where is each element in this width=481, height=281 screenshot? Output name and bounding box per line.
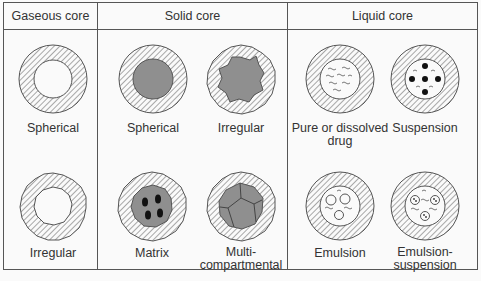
label-gaseous-spherical: Spherical — [0, 122, 108, 135]
label-gaseous-irregular: Irregular — [0, 247, 108, 260]
solid-matrix-icon — [115, 170, 189, 242]
gaseous-spherical-icon — [17, 43, 89, 115]
label-solid-multicompartmental: Multi- compartmental — [186, 246, 296, 272]
gaseous-irregular-icon — [17, 170, 89, 242]
label-liquid-suspension: Suspension — [370, 122, 480, 135]
liquid-pure-icon — [304, 43, 376, 115]
header-divider — [4, 29, 477, 30]
solid-multicompartmental-icon — [204, 170, 278, 242]
header-gaseous-core: Gaseous core — [4, 3, 97, 29]
label-liquid-emulsion-suspension: Emulsion- suspension — [370, 246, 480, 272]
liquid-suspension-icon — [389, 43, 461, 115]
header-solid-core: Solid core — [98, 3, 287, 29]
liquid-emulsion-suspension-icon — [389, 170, 461, 242]
solid-spherical-icon — [117, 43, 189, 115]
column-divider — [97, 3, 98, 269]
solid-irregular-icon — [204, 43, 278, 115]
label-solid-irregular: Irregular — [186, 122, 296, 135]
liquid-emulsion-icon — [304, 170, 376, 242]
header-liquid-core: Liquid core — [288, 3, 477, 29]
